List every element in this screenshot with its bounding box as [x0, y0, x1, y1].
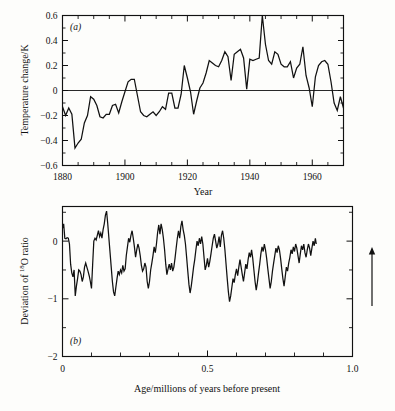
panel-b-xtick-label: 0 [60, 364, 65, 374]
panel-a-ytick-labels: −0.6−0.4−0.200.20.40.6 [40, 11, 57, 171]
panel-a-xtick-label: 1900 [115, 172, 134, 182]
panel-a-ytick-label: 0 [53, 86, 58, 96]
panel-a-ytick-label: −0.2 [40, 111, 57, 121]
panel-b-xtick-label: 1.0 [347, 364, 359, 374]
panel-a-ytick-label: 0.6 [46, 11, 58, 21]
figure-svg: −0.6−0.4−0.200.20.40.6 18801900192019401… [0, 0, 395, 411]
panel-a-xtick-labels: 18801900192019401960 [53, 172, 322, 182]
panel-a-ylabel: Temperature change/K [19, 44, 30, 136]
panel-a-ytick-label: 0.2 [46, 61, 58, 71]
panel-b-ylabel-suffix: O ratio [19, 237, 30, 265]
panel-a-xtick-label: 1880 [53, 172, 72, 182]
panel-a-xtick-label: 1960 [303, 172, 322, 182]
panel-b: −2−10 00.51.0 (b) Deviation of 18O ratio… [18, 207, 359, 395]
panel-a-xtick-label: 1920 [178, 172, 197, 182]
panel-b-label: (b) [70, 336, 81, 347]
panel-a: −0.6−0.4−0.200.20.40.6 18801900192019401… [19, 11, 344, 197]
panel-a-trace [63, 16, 344, 149]
panel-a-ytick-label: −0.4 [40, 136, 57, 146]
panel-a-xtick-label: 1940 [240, 172, 259, 182]
panel-b-ylabel-prefix: Deviation of [19, 272, 30, 325]
panel-b-xtick-labels: 00.51.0 [60, 364, 359, 374]
panel-a-ytick-label: −0.6 [40, 161, 57, 171]
panel-a-label: (a) [70, 22, 81, 33]
panel-b-ticks [63, 212, 353, 356]
panel-b-ylabel: Deviation of 18O ratio [18, 237, 30, 325]
panel-b-ytick-label: −1 [47, 294, 57, 304]
panel-b-xlabel: Age/millions of years before present [134, 383, 280, 394]
panel-b-ytick-labels: −2−10 [47, 237, 57, 362]
panel-b-trace [63, 211, 317, 302]
panel-b-xtick-label: 0.5 [202, 364, 214, 374]
panel-a-xlabel: Year [194, 186, 213, 197]
panel-b-ytick-label: 0 [53, 237, 58, 247]
figure-root: −0.6−0.4−0.200.20.40.6 18801900192019401… [0, 0, 395, 411]
panel-a-ytick-label: 0.4 [46, 36, 58, 46]
up-arrow-annotation [369, 247, 375, 306]
panel-b-frame [63, 207, 353, 357]
panel-b-ytick-label: −2 [47, 352, 57, 362]
up-arrow-head [369, 247, 375, 255]
